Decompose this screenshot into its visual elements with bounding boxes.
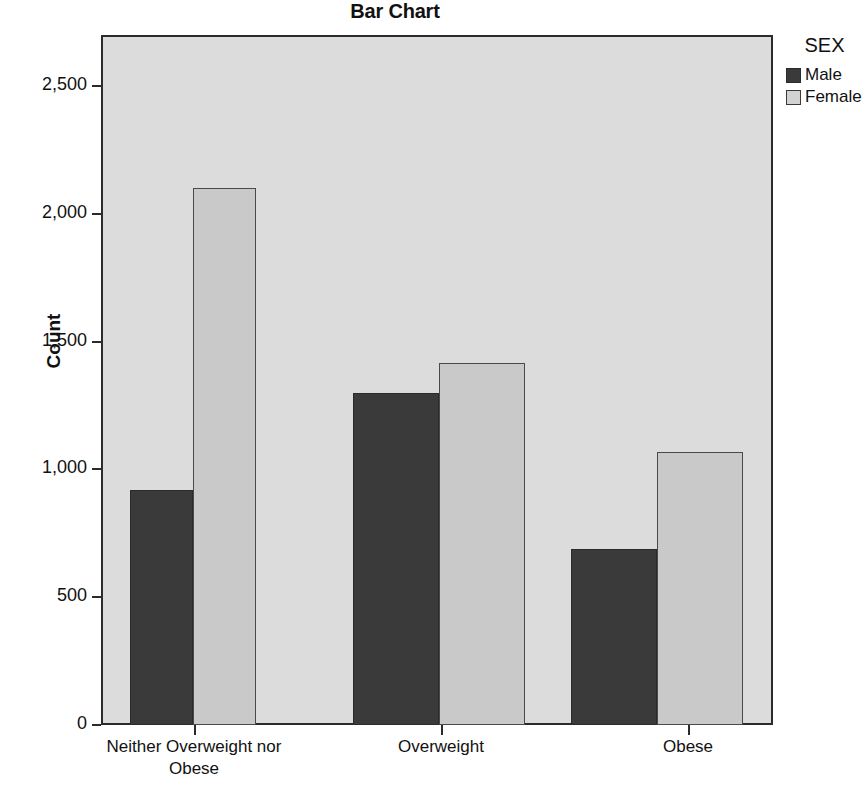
x-axis-tick-mark: [688, 725, 690, 735]
bar-female-2: [439, 363, 525, 725]
y-axis-tick-mark: [92, 213, 101, 215]
x-axis-category-label-line: Obese: [558, 736, 818, 758]
bar-male-3: [571, 549, 657, 725]
bar-female-1: [193, 188, 256, 725]
y-axis-tick-label: 500: [57, 585, 87, 606]
legend-item-female[interactable]: Female: [786, 87, 863, 107]
legend-swatch-female: [786, 90, 801, 105]
legend-label: Male: [805, 65, 842, 85]
y-axis-tick-label: 1,000: [42, 457, 87, 478]
y-axis-tick-label: 2,000: [42, 202, 87, 223]
y-axis-tick-label: 0: [77, 713, 87, 734]
legend-item-male[interactable]: Male: [786, 65, 863, 85]
chart-title: Bar Chart: [0, 0, 790, 23]
bar-female-3: [657, 452, 743, 725]
y-axis-tick-mark: [92, 724, 101, 726]
x-axis-category-label: Obese: [558, 736, 818, 758]
x-axis-tick-mark: [194, 725, 196, 735]
y-axis-tick-mark: [92, 85, 101, 87]
x-axis-category-label: Neither Overweight norObese: [64, 736, 324, 780]
legend: SEX MaleFemale: [786, 34, 863, 109]
legend-swatch-male: [786, 68, 801, 83]
y-axis-tick-label: 2,500: [42, 74, 87, 95]
x-axis-category-label-line: Overweight: [311, 736, 571, 758]
y-axis-tick-label: 1,500: [42, 330, 87, 351]
bar-chart: Bar Chart Count 05001,0001,5002,0002,500…: [0, 0, 863, 795]
bar-male-2: [353, 393, 439, 725]
x-axis-category-label-line: Neither Overweight nor: [64, 736, 324, 758]
bar-male-1: [130, 490, 193, 725]
legend-items: MaleFemale: [786, 65, 863, 107]
legend-title: SEX: [786, 34, 863, 57]
x-axis-category-label: Overweight: [311, 736, 571, 758]
x-axis-tick-mark: [441, 725, 443, 735]
y-axis-tick-mark: [92, 341, 101, 343]
y-axis-tick-mark: [92, 596, 101, 598]
x-axis-category-label-line: Obese: [64, 758, 324, 780]
legend-label: Female: [805, 87, 862, 107]
y-axis-tick-mark: [92, 468, 101, 470]
